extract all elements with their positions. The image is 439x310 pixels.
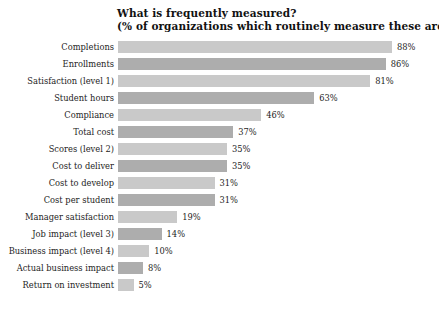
bar-area: 35% — [118, 140, 439, 157]
bar-value-label: 8% — [148, 263, 161, 273]
chart-row: Satisfaction (level 1)81% — [0, 72, 439, 89]
bar-value-label: 5% — [139, 280, 152, 290]
chart-row: Return on investment5% — [0, 276, 439, 293]
chart-row: Enrollments86% — [0, 55, 439, 72]
bar — [118, 58, 386, 70]
bar — [118, 279, 134, 291]
category-label: Cost per student — [0, 195, 118, 205]
bar-value-label: 35% — [232, 161, 250, 171]
bar-value-label: 35% — [232, 144, 250, 154]
chart-row: Cost to develop31% — [0, 174, 439, 191]
bar-value-label: 63% — [319, 93, 337, 103]
category-label: Satisfaction (level 1) — [0, 76, 118, 86]
category-label: Job impact (level 3) — [0, 229, 118, 239]
bar-area: 5% — [118, 276, 439, 293]
bar — [118, 211, 177, 223]
bar-value-label: 81% — [375, 76, 393, 86]
category-label: Business impact (level 4) — [0, 246, 118, 256]
bar-value-label: 31% — [220, 178, 238, 188]
chart-row: Actual business impact8% — [0, 259, 439, 276]
bar — [118, 228, 162, 240]
chart-row: Scores (level 2)35% — [0, 140, 439, 157]
category-label: Actual business impact — [0, 263, 118, 273]
bar — [118, 126, 233, 138]
category-label: Student hours — [0, 93, 118, 103]
category-label: Cost to deliver — [0, 161, 118, 171]
category-label: Compliance — [0, 110, 118, 120]
chart-row: Total cost37% — [0, 123, 439, 140]
bar-area: 31% — [118, 191, 439, 208]
bar — [118, 177, 215, 189]
chart-title-block: What is frequently measured? (% of organ… — [117, 7, 435, 33]
bar-area: 8% — [118, 259, 439, 276]
bar-value-label: 19% — [182, 212, 200, 222]
chart-row: Student hours63% — [0, 89, 439, 106]
category-label: Enrollments — [0, 59, 118, 69]
bar-area: 88% — [118, 38, 439, 55]
category-label: Manager satisfaction — [0, 212, 118, 222]
bar — [118, 194, 215, 206]
bar-area: 14% — [118, 225, 439, 242]
bar-value-label: 31% — [220, 195, 238, 205]
chart-row: Business impact (level 4)10% — [0, 242, 439, 259]
bar-value-label: 46% — [266, 110, 284, 120]
chart-row: Cost per student31% — [0, 191, 439, 208]
bar-value-label: 86% — [391, 59, 409, 69]
bar-value-label: 14% — [167, 229, 185, 239]
bar-value-label: 10% — [154, 246, 172, 256]
chart-row: Cost to deliver35% — [0, 157, 439, 174]
bar-area: 37% — [118, 123, 439, 140]
category-label: Cost to develop — [0, 178, 118, 188]
bar-value-label: 88% — [397, 42, 415, 52]
chart-row: Manager satisfaction19% — [0, 208, 439, 225]
bar — [118, 41, 392, 53]
chart-title-line-1: What is frequently measured? — [117, 7, 435, 20]
category-label: Completions — [0, 42, 118, 52]
bar-area: 19% — [118, 208, 439, 225]
chart-row: Compliance46% — [0, 106, 439, 123]
bar-area: 46% — [118, 106, 439, 123]
bar — [118, 245, 149, 257]
bar — [118, 160, 227, 172]
chart-title-line-2: (% of organizations which routinely meas… — [117, 20, 435, 33]
category-label: Scores (level 2) — [0, 144, 118, 154]
plot-area: Completions88%Enrollments86%Satisfaction… — [0, 38, 439, 293]
bar-area: 10% — [118, 242, 439, 259]
chart-row: Completions88% — [0, 38, 439, 55]
bar-area: 35% — [118, 157, 439, 174]
bar — [118, 92, 314, 104]
chart-row: Job impact (level 3)14% — [0, 225, 439, 242]
bar — [118, 109, 261, 121]
bar-area: 63% — [118, 89, 439, 106]
bar-area: 81% — [118, 72, 439, 89]
bar-chart: What is frequently measured? (% of organ… — [0, 0, 439, 310]
bar-area: 86% — [118, 55, 439, 72]
bar — [118, 143, 227, 155]
bar-area: 31% — [118, 174, 439, 191]
category-label: Total cost — [0, 127, 118, 137]
bar — [118, 262, 143, 274]
bar-value-label: 37% — [238, 127, 256, 137]
bar — [118, 75, 370, 87]
category-label: Return on investment — [0, 280, 118, 290]
